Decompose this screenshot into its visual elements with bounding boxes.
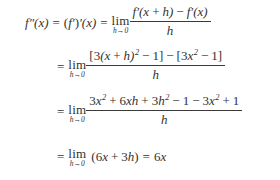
- equals-sign: =: [57, 105, 64, 118]
- derivation-line-3: = lim h→0 3x2+6xh+3h2−1−3x2+1 h: [57, 95, 242, 129]
- three-h-term: 3h: [121, 149, 134, 164]
- equals-sign: =: [48, 16, 63, 29]
- three-x-term: 3x: [181, 48, 193, 63]
- equals-sign: =: [57, 60, 64, 73]
- variable-x: x: [160, 149, 166, 164]
- variable-h: h: [158, 93, 165, 108]
- right-arrow-icon: →: [74, 115, 82, 124]
- limit-operator: lim h→0: [68, 147, 86, 168]
- open-x: (x: [139, 4, 149, 19]
- plus-sign: +: [110, 48, 123, 63]
- argument-x: (x): [82, 15, 96, 30]
- equals-sign: =: [57, 150, 64, 163]
- minus-sign: −: [198, 48, 211, 63]
- variable-x: x: [209, 93, 215, 108]
- h-close: h): [162, 4, 173, 19]
- minus-sign: −: [189, 93, 202, 108]
- limit-target: 0: [124, 26, 128, 35]
- fraction-numerator: 3x2+6xh+3h2−1−3x2+1: [86, 94, 242, 111]
- minus-sign: −: [139, 48, 152, 63]
- argument-x: (x): [193, 4, 207, 19]
- fraction-denominator: h: [86, 111, 242, 128]
- difference-quotient-fraction: f′(x+h)−f′(x) h: [130, 5, 211, 39]
- limit-subscript: h→0: [68, 160, 86, 168]
- derivation-line-4: = lim h→0 (6x+3h) = 6x: [57, 146, 166, 167]
- simplified-numerator-fraction: 3x2+6xh+3h2−1−3x2+1 h: [86, 94, 242, 128]
- limit-target: 0: [81, 70, 85, 79]
- three-x-term: 3x: [89, 93, 101, 108]
- limit-operator: lim h→0: [68, 58, 86, 79]
- limit-expression: (6x+3h): [86, 150, 138, 163]
- limit-operator: lim h→0: [68, 103, 86, 124]
- plus-sign: +: [108, 149, 121, 164]
- derivation-line-1: f″(x) = (f′)′(x) = lim h→0 f′(x+h)−f′(x)…: [25, 6, 211, 40]
- limit-subscript: h→0: [112, 27, 130, 35]
- six-xh-term: 6xh: [120, 93, 139, 108]
- limit-subscript: h→0: [68, 116, 86, 124]
- minus-sign: −: [169, 93, 182, 108]
- plus-sign: +: [106, 93, 119, 108]
- limit-target: 0: [81, 115, 85, 124]
- equals-sign: =: [96, 16, 111, 29]
- derivative-of-derivative-symbol: (f′)′(x): [64, 16, 96, 29]
- minus-sign: −: [173, 4, 186, 19]
- math-derivation-page: f″(x) = (f′)′(x) = lim h→0 f′(x+h)−f′(x)…: [0, 0, 280, 180]
- second-derivative-symbol: f″(x): [25, 16, 48, 29]
- open-x: (x: [100, 48, 110, 63]
- final-result: 6x: [154, 150, 166, 163]
- minus-sign: −: [163, 48, 176, 63]
- expanded-difference-fraction: [3(x+h)2−1]−[3x2−1] h: [86, 49, 225, 83]
- derivation-line-2: = lim h→0 [3(x+h)2−1]−[3x2−1] h: [57, 50, 225, 84]
- fraction-denominator: h: [130, 22, 211, 39]
- plus-sign: +: [138, 93, 151, 108]
- fraction-numerator: [3(x+h)2−1]−[3x2−1]: [86, 49, 225, 66]
- limit-subscript: h→0: [68, 71, 86, 79]
- fraction-denominator: h: [86, 66, 225, 83]
- six-x-term: 6x: [96, 149, 108, 164]
- argument-x: (x): [34, 15, 48, 30]
- plus-sign: +: [219, 93, 232, 108]
- right-arrow-icon: →: [74, 159, 82, 168]
- limit-operator: lim h→0: [112, 14, 130, 35]
- constant-one: 1: [233, 93, 240, 108]
- three-x-term: 3x: [203, 93, 215, 108]
- right-arrow-icon: →: [74, 70, 82, 79]
- h-close: h): [124, 48, 135, 63]
- close-bracket: ]: [218, 48, 222, 63]
- equals-sign: =: [139, 150, 154, 163]
- limit-target: 0: [81, 159, 85, 168]
- variable-x: x: [96, 93, 102, 108]
- three-h-term: 3h: [152, 93, 165, 108]
- fraction-numerator: f′(x+h)−f′(x): [130, 5, 211, 22]
- plus-sign: +: [149, 4, 162, 19]
